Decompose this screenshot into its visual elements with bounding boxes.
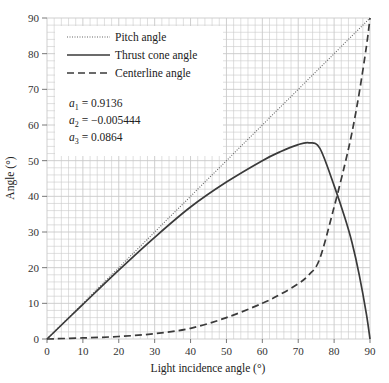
legend-label: Thrust cone angle (115, 49, 197, 62)
x-tick-label: 40 (185, 345, 197, 357)
y-tick-label: 40 (28, 190, 40, 202)
y-tick-label: 30 (28, 226, 40, 238)
x-tick-label: 60 (257, 345, 269, 357)
x-tick-label: 10 (77, 345, 89, 357)
x-tick-label: 70 (293, 345, 305, 357)
chart: 01020304050607080900102030405060708090 P… (0, 0, 389, 383)
y-tick-label: 20 (28, 262, 40, 274)
y-tick-label: 60 (28, 119, 40, 131)
y-tick-label: 10 (28, 297, 40, 309)
y-tick-label: 50 (28, 155, 40, 167)
x-tick-label: 0 (44, 345, 50, 357)
legend-label: Pitch angle (115, 31, 166, 44)
x-tick-label: 20 (113, 345, 125, 357)
y-axis-label: Angle (°) (4, 156, 17, 199)
legend-label: Centerline angle (115, 67, 191, 80)
y-tick-label: 70 (28, 83, 40, 95)
x-tick-label: 30 (149, 345, 161, 357)
x-tick-label: 50 (221, 345, 233, 357)
y-tick-label: 0 (34, 333, 40, 345)
x-tick-label: 90 (365, 345, 377, 357)
x-axis-label: Light incidence angle (°) (151, 362, 266, 375)
x-tick-label: 80 (329, 345, 341, 357)
thrust-cone-angle-line (47, 143, 370, 339)
y-tick-label: 80 (28, 48, 40, 60)
y-tick-label: 90 (28, 12, 40, 24)
